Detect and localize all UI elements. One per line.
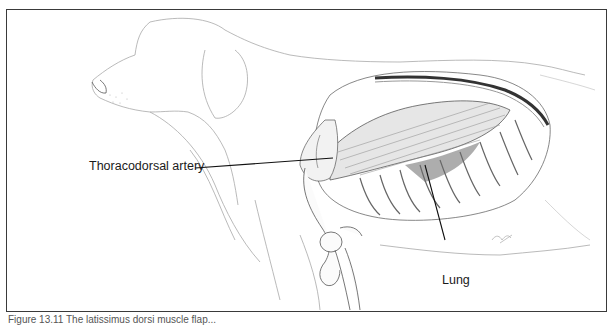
figure-caption: Figure 13.11 The latissimus dorsi muscle… [8, 314, 216, 325]
artist-signature [492, 235, 512, 243]
label-thoracodorsal-artery: Thoracodorsal artery [89, 159, 204, 173]
thorax-dissection [300, 72, 550, 221]
forelimb-bones [304, 168, 362, 310]
label-lung: Lung [442, 273, 470, 287]
skin-edge-right [540, 75, 595, 240]
